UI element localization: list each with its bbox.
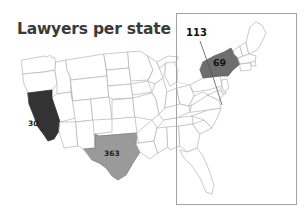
state-florida [180, 148, 214, 194]
state-maine [246, 22, 266, 54]
state-value-california: 30 [28, 119, 38, 128]
state-value-texas: 363 [104, 149, 120, 158]
state-alabama [167, 126, 180, 150]
state-rhode-island [251, 61, 256, 66]
state-minnesota [128, 51, 153, 81]
state-arizona [59, 122, 78, 148]
state-wyoming [71, 76, 109, 101]
state-connecticut [240, 63, 251, 71]
state-montana [66, 54, 107, 80]
state-north-dakota [104, 52, 129, 70]
state-new-jersey [222, 79, 229, 92]
callout-value-113: 113 [186, 27, 207, 38]
state-new-mexico [76, 120, 95, 149]
state-iowa [131, 81, 152, 95]
state-oregon [23, 70, 57, 93]
state-colorado [91, 97, 112, 120]
state-value-new-york: 69 [213, 57, 226, 68]
state-nebraska [108, 84, 133, 99]
state-kansas [112, 98, 135, 119]
page-title: Lawyers per state [17, 20, 171, 38]
figure-canvas: Lawyers per state 113 69 30 363 [0, 0, 305, 218]
state-south-dakota [107, 68, 131, 86]
